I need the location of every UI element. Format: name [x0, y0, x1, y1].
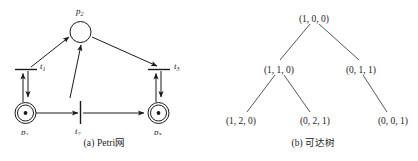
place-p1-token	[24, 111, 28, 115]
reachability-tree-diagram: (1, 0, 0) (1, 1, 0) (0, 1, 1) (1, 2, 0) …	[209, 0, 418, 135]
place-p1	[15, 103, 36, 124]
place-p2	[70, 22, 91, 43]
place-p1-label: p1	[20, 127, 29, 135]
tree-edge-right-to-c	[363, 75, 387, 112]
tree-node-l3-b: (0, 2, 1)	[300, 116, 330, 127]
place-p2-outer	[70, 22, 91, 43]
place-p3	[148, 103, 169, 124]
tree-node-root: (1, 0, 0)	[299, 14, 329, 25]
place-p2-label: p2	[75, 6, 84, 17]
tree-node-l2-left: (1, 1, 0)	[264, 65, 294, 76]
tree-edge-root-to-right	[319, 24, 359, 60]
petri-net-panel: p1 p2 p3 t1 t2 t3 (a) Petri网	[0, 0, 209, 161]
transition-t1-label: t1	[40, 61, 46, 72]
reachability-tree-panel: (1, 0, 0) (1, 1, 0) (0, 1, 1) (1, 2, 0) …	[209, 0, 418, 161]
petri-net-diagram: p1 p2 p3 t1 t2 t3	[0, 0, 209, 135]
arc-p2-to-t3	[92, 37, 157, 66]
tree-node-l2-right: (0, 1, 1)	[346, 65, 376, 76]
petri-net-caption: (a) Petri网	[0, 135, 209, 149]
transition-t3-label: t3	[174, 61, 180, 72]
place-p3-token	[157, 111, 161, 115]
tree-node-l3-a: (1, 2, 0)	[226, 116, 256, 127]
tree-node-l3-c: (0, 0, 1)	[378, 116, 408, 127]
transition-t2-label: t2	[75, 126, 81, 135]
place-p3-label: p3	[153, 127, 162, 135]
arc-t1-to-p2	[31, 37, 69, 67]
figure-root: p1 p2 p3 t1 t2 t3 (a) Petri网 (1, 0, 0) (…	[0, 0, 418, 161]
arc-t2-to-p2	[70, 45, 81, 98]
reachability-tree-caption: (b) 可达树	[209, 135, 418, 149]
tree-edge-left-to-b	[284, 75, 310, 112]
tree-edge-root-to-left	[280, 24, 310, 60]
tree-edge-left-to-a	[247, 75, 275, 112]
